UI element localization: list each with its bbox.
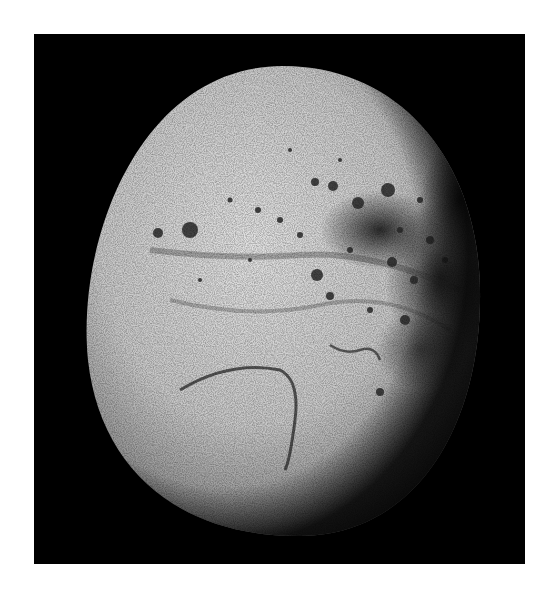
moon-image xyxy=(0,0,555,599)
moon-body xyxy=(70,60,500,540)
